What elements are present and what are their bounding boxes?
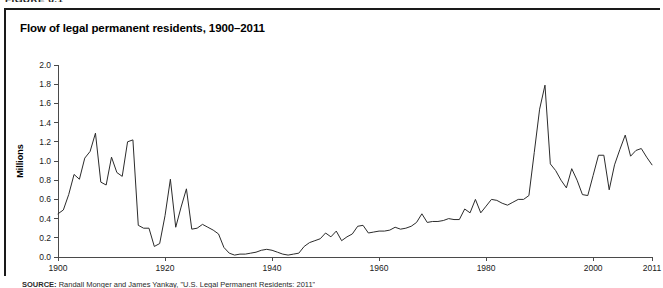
source-text: Randall Monger and James Yankay, "U.S. L… <box>59 280 316 288</box>
y-axis-title: Millions <box>15 144 25 178</box>
y-tick-label: 1.6 <box>39 98 51 108</box>
y-axis-tick-group: 0.00.20.40.60.81.01.21.41.61.82.0 <box>39 60 58 262</box>
x-tick-label: 1900 <box>49 263 68 273</box>
x-tick-label: 2000 <box>584 263 603 273</box>
x-tick-label: 2011 <box>643 263 662 273</box>
y-tick-label: 0.4 <box>39 214 51 224</box>
data-series-line <box>58 85 652 255</box>
y-tick-label: 1.4 <box>39 118 51 128</box>
x-tick-label: 1940 <box>263 263 282 273</box>
y-tick-label: 1.0 <box>39 156 51 166</box>
y-tick-label: 1.2 <box>39 137 51 147</box>
x-tick-label: 1980 <box>477 263 496 273</box>
y-tick-label: 0.2 <box>39 233 51 243</box>
y-tick-label: 0.0 <box>39 252 51 262</box>
y-tick-label: 0.8 <box>39 175 51 185</box>
y-tick-label: 2.0 <box>39 60 51 70</box>
x-tick-label: 1920 <box>156 263 175 273</box>
x-tick-label: 1960 <box>370 263 389 273</box>
y-tick-label: 0.6 <box>39 194 51 204</box>
source-note: SOURCE: Randall Monger and James Yankay,… <box>22 280 315 288</box>
x-axis-tick-group: 1900192019401960198020002011 <box>49 257 662 273</box>
source-prefix: SOURCE: <box>22 280 57 288</box>
y-tick-label: 1.8 <box>39 79 51 89</box>
